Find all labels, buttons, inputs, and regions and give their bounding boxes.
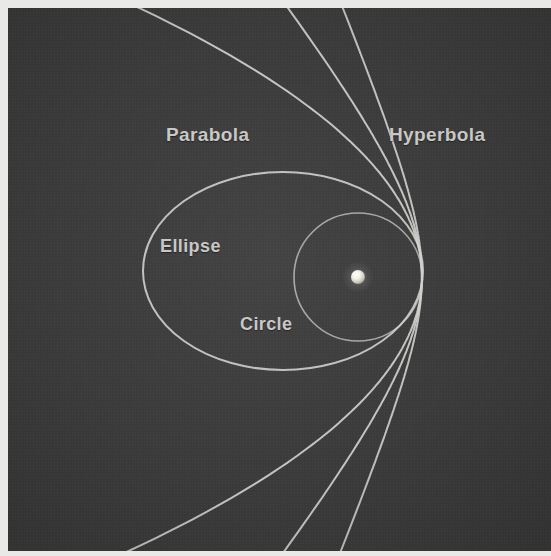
figure-canvas: Parabola Hyperbola Ellipse Circle [0,0,551,556]
diagram-plate [8,8,551,551]
label-hyperbola: Hyperbola [389,124,486,146]
curve-ellipse [143,172,423,370]
label-circle: Circle [240,314,292,335]
page-margin-bottom [0,551,551,556]
orbit-curves-layer [8,8,551,551]
page-margin-left [0,0,8,556]
page-margin-top [0,0,551,8]
central-star [342,261,374,293]
label-parabola: Parabola [166,124,249,146]
label-ellipse: Ellipse [160,236,221,257]
